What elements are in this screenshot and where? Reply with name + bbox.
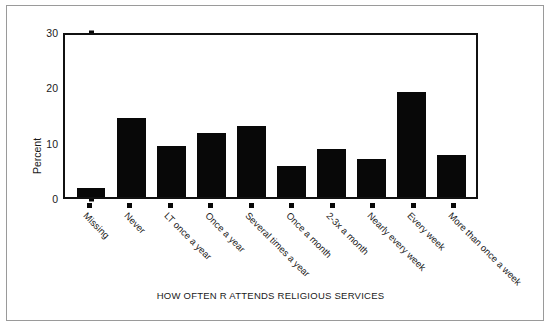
- x-label-slot: Once a year: [191, 208, 232, 286]
- x-tick-label-never: Never: [122, 210, 148, 236]
- bar-slot: [71, 35, 111, 197]
- bar-more-than-once-a-week: [437, 155, 466, 197]
- x-label-slot: Once a month: [272, 208, 313, 286]
- bar-slot: [432, 35, 472, 197]
- y-axis-title: Percent: [31, 111, 43, 201]
- x-axis-title: HOW OFTEN R ATTENDS RELIGIOUS SERVICES: [63, 290, 478, 301]
- bar-every-week: [397, 92, 426, 197]
- bar-slot: [111, 35, 151, 197]
- x-label-slot: LT once a year: [150, 208, 191, 286]
- bar-missing: [77, 188, 106, 197]
- bar-slot: [151, 35, 191, 197]
- bar-lt-once-a-year: [157, 146, 186, 197]
- x-label-slot: Nearly every week: [353, 208, 394, 286]
- bar-2-3x-a-month: [317, 149, 346, 197]
- bar-never: [117, 118, 146, 197]
- y-tick-label-10: 10: [46, 138, 58, 150]
- y-tick-label-30: 30: [46, 27, 58, 39]
- x-label-slot: More than once a week: [434, 208, 475, 286]
- bar-several-times-a-year: [237, 126, 266, 197]
- x-label-slot: Every week: [393, 208, 434, 286]
- bar-slot: [231, 35, 271, 197]
- bar-chart-figure: 30 20 10 0 Percent: [0, 0, 551, 329]
- bar-slot: [352, 35, 392, 197]
- bar-slot: [271, 35, 311, 197]
- y-tick-label-0: 0: [52, 193, 58, 205]
- bar-series: [65, 35, 476, 197]
- x-label-slot: Several times a year: [231, 208, 272, 286]
- plot-area: [63, 33, 478, 199]
- x-axis-tick-labels: Missing Never LT once a year Once a year…: [63, 208, 478, 286]
- bar-slot: [312, 35, 352, 197]
- x-label-slot: Never: [110, 208, 151, 286]
- bar-once-a-year: [197, 133, 226, 197]
- x-label-slot: Missing: [69, 208, 110, 286]
- y-tick-label-20: 20: [46, 82, 58, 94]
- x-label-slot: 2-3x a month: [312, 208, 353, 286]
- bar-nearly-every-week: [357, 159, 386, 197]
- x-tick-label-missing: Missing: [81, 210, 112, 241]
- bar-slot: [191, 35, 231, 197]
- bar-once-a-month: [277, 166, 306, 197]
- bar-slot: [392, 35, 432, 197]
